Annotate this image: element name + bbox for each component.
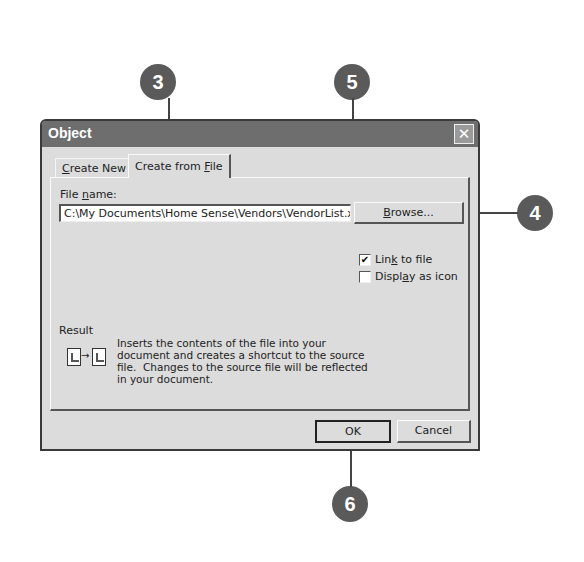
result-description: Inserts the contents of the file into yo… [117, 337, 368, 385]
callout-number: 4 [529, 202, 540, 225]
tab-label: ile [210, 160, 223, 173]
label-text: Displ [375, 270, 402, 283]
callout-number: 6 [344, 493, 355, 516]
callout-5: 5 [334, 64, 370, 100]
file-name-label: File name: [60, 188, 117, 201]
cancel-button[interactable]: Cancel [397, 420, 471, 443]
display-as-icon-checkbox[interactable] [359, 271, 371, 283]
display-as-icon-label[interactable]: Display as icon [375, 270, 458, 283]
callout-number: 5 [346, 71, 357, 94]
title-bar: Object ✕ [42, 121, 478, 147]
tab-label: Create from [135, 160, 204, 173]
link-to-file-label[interactable]: Link to file [375, 253, 432, 266]
result-line: file. Changes to the source file will be… [117, 361, 368, 373]
tab-create-new[interactable]: Create New [55, 158, 133, 178]
label-text: to file [398, 253, 433, 266]
close-icon: ✕ [458, 125, 471, 143]
tab-create-from-file[interactable]: Create from File [128, 154, 231, 178]
label-text: ame: [89, 188, 117, 201]
callout-3: 3 [140, 64, 176, 100]
arrow-icon: → [81, 350, 89, 361]
file-name-input[interactable]: C:\My Documents\Home Sense\Vendors\Vendo… [59, 204, 351, 222]
label-text: y as icon [409, 270, 458, 283]
label-text: Lin [375, 253, 391, 266]
linked-file-icon [92, 348, 106, 366]
label-text: File [60, 188, 82, 201]
callout-6: 6 [332, 486, 368, 522]
result-label: Result [59, 324, 93, 337]
link-to-file-checkbox[interactable]: ✔ [359, 254, 371, 266]
button-label: rowse... [391, 206, 434, 219]
result-line: Inserts the contents of the file into yo… [117, 337, 368, 349]
tab-mnemonic: C [62, 162, 70, 175]
tab-label: reate New [70, 162, 126, 175]
result-line: document and creates a shortcut to the s… [117, 349, 368, 361]
callout-number: 3 [152, 71, 163, 94]
callout-4: 4 [517, 195, 553, 231]
checkmark-icon: ✔ [361, 254, 369, 265]
object-dialog: Object ✕ Create New Create from File Fil… [40, 119, 480, 451]
close-button[interactable]: ✕ [454, 124, 474, 144]
dialog-title: Object [48, 125, 92, 141]
ok-button[interactable]: OK [315, 420, 391, 443]
source-file-icon [67, 348, 81, 366]
button-mnemonic: B [383, 206, 391, 219]
label-mnemonic: n [82, 188, 89, 201]
result-line: in your document. [117, 373, 368, 385]
browse-button[interactable]: Browse... [354, 202, 464, 224]
